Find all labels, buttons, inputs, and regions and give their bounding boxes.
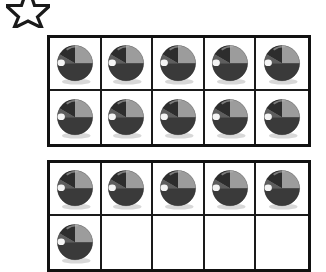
frame-cell [256, 91, 308, 144]
beach-ball-icon [261, 168, 303, 210]
frame-cell [256, 163, 308, 216]
frame-cell [153, 163, 205, 216]
star-icon [6, 0, 50, 28]
frame-cell [205, 216, 257, 269]
frame-cell [50, 38, 102, 91]
frame-cell [102, 163, 154, 216]
beach-ball-icon [54, 168, 96, 210]
frame-cell [102, 216, 154, 269]
frame-cell [50, 91, 102, 144]
frame-cell [205, 163, 257, 216]
frame-cell [256, 216, 308, 269]
beach-ball-icon [157, 97, 199, 139]
beach-ball-icon [157, 168, 199, 210]
beach-ball-icon [261, 43, 303, 85]
frame-cell [205, 91, 257, 144]
ten-frame-2 [47, 160, 311, 272]
beach-ball-icon [105, 43, 147, 85]
beach-ball-icon [261, 97, 303, 139]
frame-cell [153, 91, 205, 144]
frame-cell [102, 91, 154, 144]
beach-ball-icon [209, 97, 251, 139]
beach-ball-icon [209, 43, 251, 85]
beach-ball-icon [157, 43, 199, 85]
frame-cell [153, 216, 205, 269]
frame-cell [102, 38, 154, 91]
frame-cell [205, 38, 257, 91]
frame-cell [50, 163, 102, 216]
frame-cell [153, 38, 205, 91]
beach-ball-icon [54, 97, 96, 139]
frame-cell [256, 38, 308, 91]
frame-cell [50, 216, 102, 269]
beach-ball-icon [54, 43, 96, 85]
beach-ball-icon [209, 168, 251, 210]
beach-ball-icon [105, 168, 147, 210]
beach-ball-icon [105, 97, 147, 139]
ten-frame-1 [47, 35, 311, 147]
beach-ball-icon [54, 222, 96, 264]
